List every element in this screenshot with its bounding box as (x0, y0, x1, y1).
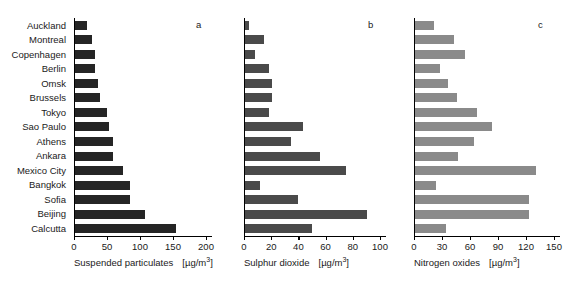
city-label: Ankara (0, 149, 70, 164)
city-label: Mexico City (0, 163, 70, 178)
bar-row (75, 221, 206, 236)
bar-row (75, 33, 206, 48)
bar-row (415, 62, 554, 77)
x-axis-tick-label: 200 (198, 242, 214, 252)
x-axis-tick-label: 50 (102, 242, 113, 252)
panel-b-sulphur-dioxide: b Sulphur dioxide[µg/m3] 020406080100 (244, 0, 400, 293)
x-axis-tick (140, 236, 141, 240)
x-axis-title-b: Sulphur dioxide[µg/m3] (244, 256, 400, 268)
bar (415, 108, 477, 117)
bar-row (415, 221, 554, 236)
bar-row (75, 149, 206, 164)
bar (415, 64, 440, 73)
city-label: Omsk (0, 76, 70, 91)
panel-c-nitrogen-oxides: c Nitrogen oxides[µg/m3] 0306090120150 (414, 0, 574, 293)
x-axis-tick-label: 150 (546, 242, 562, 252)
bar-row (75, 47, 206, 62)
bar-row (245, 192, 380, 207)
plot-area-a (74, 18, 206, 236)
bar-row (75, 105, 206, 120)
x-axis-tick-label: 30 (437, 242, 448, 252)
x-axis-tick (244, 236, 245, 240)
bar (245, 21, 249, 30)
bar (245, 50, 255, 59)
bar-row (75, 163, 206, 178)
bar (415, 152, 458, 161)
x-axis-tick (173, 236, 174, 240)
bar-row (245, 207, 380, 222)
city-label: Auckland (0, 18, 70, 33)
x-axis-tick-label: 0 (411, 242, 416, 252)
city-label: Calcutta (0, 221, 70, 236)
plot-area-b (244, 18, 380, 236)
x-axis-title-text-b: Sulphur dioxide (244, 257, 310, 268)
city-label: Beijing (0, 207, 70, 222)
x-axis-tick-label: 90 (493, 242, 504, 252)
bar-row (245, 120, 380, 135)
city-axis-labels: AucklandMontrealCopenhagenBerlinOmskBrus… (0, 18, 70, 236)
bar (415, 79, 448, 88)
bar-row (415, 47, 554, 62)
x-axis-tick (353, 236, 354, 240)
x-axis-title-text-a: Suspended particulates (74, 257, 173, 268)
bar-row (415, 163, 554, 178)
bar (415, 137, 474, 146)
bar (75, 210, 145, 219)
bar-row (415, 105, 554, 120)
bar (75, 64, 95, 73)
bar (415, 210, 529, 219)
x-axis-title-text-c: Nitrogen oxides (414, 257, 480, 268)
bar (415, 122, 492, 131)
city-label: Brussels (0, 91, 70, 106)
bar (245, 93, 272, 102)
x-axis-tick (414, 236, 415, 240)
x-axis-tick (74, 236, 75, 240)
x-axis-tick (298, 236, 299, 240)
bar (245, 181, 260, 190)
bar (415, 50, 465, 59)
x-axis-tick-label: 100 (132, 242, 148, 252)
city-label: Sao Paulo (0, 120, 70, 135)
bar (75, 152, 113, 161)
bar (75, 137, 113, 146)
bar (75, 79, 98, 88)
x-axis-title-c: Nitrogen oxides[µg/m3] (414, 256, 574, 268)
x-axis-tick (107, 236, 108, 240)
bar-row (245, 221, 380, 236)
bar (245, 108, 269, 117)
bar (415, 224, 446, 233)
bar-row (245, 47, 380, 62)
x-axis-tick (526, 236, 527, 240)
x-axis-tick (326, 236, 327, 240)
panel-a-suspended-particulates: a Suspended particulates[µg/m3] 05010015… (74, 0, 230, 293)
bar (245, 137, 291, 146)
bar-row (415, 76, 554, 91)
bar (75, 166, 123, 175)
city-label: Sofia (0, 192, 70, 207)
x-axis-tick-label: 0 (241, 242, 246, 252)
x-axis-tick (498, 236, 499, 240)
bar (415, 35, 454, 44)
x-axis-tick (271, 236, 272, 240)
air-pollution-bar-chart-figure: AucklandMontrealCopenhagenBerlinOmskBrus… (0, 0, 587, 293)
bar-row (415, 120, 554, 135)
city-label: Berlin (0, 62, 70, 77)
x-axis-line-b (244, 236, 386, 237)
bar-row (75, 207, 206, 222)
x-axis-tick-label: 80 (348, 242, 359, 252)
city-label: Copenhagen (0, 47, 70, 62)
bar-row (75, 178, 206, 193)
city-label: Bangkok (0, 178, 70, 193)
bar (245, 210, 367, 219)
bar-row (415, 134, 554, 149)
bar (75, 50, 95, 59)
bar-group-c (415, 18, 554, 236)
bar-row (245, 134, 380, 149)
bar-row (75, 120, 206, 135)
bar (415, 21, 434, 30)
bar (245, 35, 264, 44)
x-axis-title-a: Suspended particulates[µg/m3] (74, 256, 230, 268)
bar (75, 224, 176, 233)
bar (245, 152, 320, 161)
x-axis-tick (206, 236, 207, 240)
